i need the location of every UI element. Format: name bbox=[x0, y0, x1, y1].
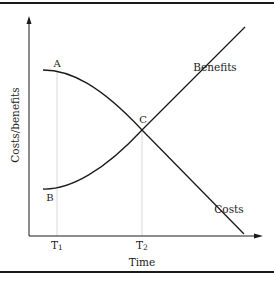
y-axis-arrow-icon bbox=[27, 16, 32, 24]
costs-label: Costs bbox=[214, 203, 243, 215]
point-a-label: A bbox=[52, 58, 61, 69]
benefits-curve bbox=[43, 27, 245, 189]
x-axis-arrow-icon bbox=[254, 234, 263, 239]
x-axis-title: Time bbox=[129, 256, 156, 268]
point-c-label: C bbox=[139, 114, 147, 125]
benefits-label: Benefits bbox=[193, 61, 237, 73]
y-axis-title: Costs/benefits bbox=[9, 87, 21, 162]
t1-label: T1 bbox=[51, 239, 63, 252]
point-b-label: B bbox=[46, 192, 53, 203]
costs-benefits-diagram: A B C Benefits Costs T1 T2 Time Costs/be… bbox=[0, 0, 274, 282]
t2-label: T2 bbox=[136, 239, 148, 252]
